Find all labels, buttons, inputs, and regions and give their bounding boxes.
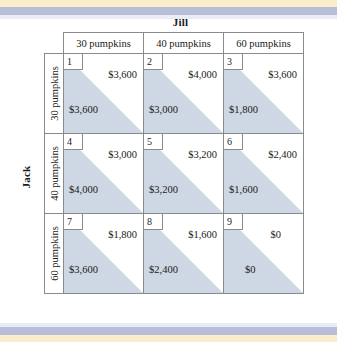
matrix-row-0: 30 pumpkins 1 $3,600 $3,600 2 $4,000 $3,… — [45, 54, 304, 134]
jack-payoff-8: $2,400 — [149, 264, 178, 275]
jill-payoff-6: $2,400 — [268, 149, 297, 160]
jill-payoff-5: $3,200 — [188, 149, 217, 160]
jill-payoff-9: $0 — [271, 229, 282, 240]
payoff-matrix-figure: Jill Jack 30 pumpkins 40 pumpkins 60 pum… — [0, 16, 337, 316]
column-header-row: 30 pumpkins 40 pumpkins 60 pumpkins — [45, 33, 304, 54]
column-header-0: 30 pumpkins — [64, 33, 144, 54]
blue-stripe-bottom — [0, 327, 337, 335]
payoff-cell-3[interactable]: 3 $3,600 $1,800 — [224, 54, 304, 134]
matrix-row-1: 40 pumpkins 4 $3,000 $4,000 5 $3,200 $3,… — [45, 134, 304, 214]
cell-number-8: 8 — [144, 214, 163, 230]
cell-number-9: 9 — [224, 214, 243, 230]
cell-number-2: 2 — [144, 54, 163, 70]
jill-payoff-2: $4,000 — [188, 69, 217, 80]
column-header-1: 40 pumpkins — [144, 33, 224, 54]
bottom-decorative-band — [0, 323, 337, 342]
payoff-cell-8[interactable]: 8 $1,600 $2,400 — [144, 214, 224, 294]
row-header-2-label: 60 pumpkins — [49, 226, 60, 281]
jack-payoff-5: $3,200 — [149, 184, 178, 195]
jack-payoff-9: $0 — [245, 264, 256, 275]
cell-number-1: 1 — [64, 54, 83, 70]
matrix-row-2: 60 pumpkins 7 $1,800 $3,600 8 $1,600 $2,… — [45, 214, 304, 294]
cell-number-6: 6 — [224, 134, 243, 150]
payoff-cell-1[interactable]: 1 $3,600 $3,600 — [64, 54, 144, 134]
jill-payoff-7: $1,800 — [108, 229, 137, 240]
jack-payoff-7: $3,600 — [69, 264, 98, 275]
jack-payoff-6: $1,600 — [229, 184, 258, 195]
payoff-cell-6[interactable]: 6 $2,400 $1,600 — [224, 134, 304, 214]
row-player-title: Jack — [16, 56, 36, 298]
row-header-0-label: 30 pumpkins — [49, 66, 60, 121]
row-player-title-label: Jack — [20, 166, 32, 189]
payoff-matrix-table: 30 pumpkins 40 pumpkins 60 pumpkins 30 p… — [44, 32, 304, 294]
jill-payoff-8: $1,600 — [188, 229, 217, 240]
payoff-cell-9[interactable]: 9 $0 $0 — [224, 214, 304, 294]
jack-payoff-4: $4,000 — [69, 184, 98, 195]
jill-payoff-3: $3,600 — [268, 69, 297, 80]
jill-payoff-4: $3,000 — [108, 149, 137, 160]
column-player-title: Jill — [62, 16, 299, 28]
payoff-cell-4[interactable]: 4 $3,000 $4,000 — [64, 134, 144, 214]
jack-payoff-2: $3,000 — [149, 104, 178, 115]
row-header-1: 40 pumpkins — [45, 134, 64, 214]
row-header-1-label: 40 pumpkins — [49, 146, 60, 201]
row-header-2: 60 pumpkins — [45, 214, 64, 294]
payoff-cell-7[interactable]: 7 $1,800 $3,600 — [64, 214, 144, 294]
cell-number-4: 4 — [64, 134, 83, 150]
jack-payoff-3: $1,800 — [229, 104, 258, 115]
cell-number-7: 7 — [64, 214, 83, 230]
cell-number-3: 3 — [224, 54, 243, 70]
payoff-cell-2[interactable]: 2 $4,000 $3,000 — [144, 54, 224, 134]
cream-stripe-bottom — [0, 335, 337, 342]
row-header-0: 30 pumpkins — [45, 54, 64, 134]
jill-payoff-1: $3,600 — [108, 69, 137, 80]
jack-payoff-1: $3,600 — [69, 104, 98, 115]
blue-stripe-top — [0, 7, 337, 15]
cell-number-5: 5 — [144, 134, 163, 150]
cream-stripe-top — [0, 0, 337, 7]
payoff-cell-5[interactable]: 5 $3,200 $3,200 — [144, 134, 224, 214]
column-header-2: 60 pumpkins — [224, 33, 304, 54]
corner-blank-cell — [45, 33, 64, 54]
